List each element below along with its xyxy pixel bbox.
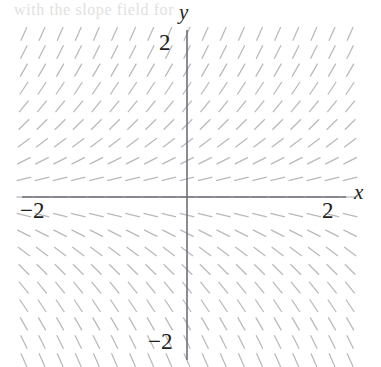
- slope-segment: [129, 335, 136, 348]
- slope-segment: [311, 353, 317, 367]
- slope-segment: [254, 264, 265, 275]
- slope-segment: [164, 101, 173, 113]
- slope-segment: [234, 213, 249, 217]
- slope-segment: [329, 335, 336, 348]
- slope-segment: [147, 82, 155, 94]
- slope-segment: [90, 138, 102, 147]
- slope-segment: [39, 27, 45, 41]
- slope-segment: [201, 300, 209, 312]
- slope-segment: [145, 138, 157, 147]
- slope-segment: [255, 300, 263, 312]
- slope-segment: [55, 264, 66, 275]
- slope-segment: [71, 177, 86, 181]
- slope-segment: [111, 353, 117, 367]
- slope-segment: [273, 82, 281, 94]
- slope-segment: [220, 64, 227, 77]
- slope-segment: [145, 247, 157, 256]
- slope-segment: [144, 157, 157, 164]
- slope-segment: [201, 64, 208, 77]
- slope-segment: [72, 247, 84, 256]
- slope-segment: [18, 247, 30, 256]
- slope-segment: [35, 177, 50, 181]
- slope-segment: [346, 300, 354, 312]
- slope-segment: [127, 247, 139, 256]
- slope-segment: [20, 317, 27, 330]
- slope-segment: [343, 213, 358, 217]
- slope-segment: [54, 138, 66, 147]
- slope-segment: [272, 138, 284, 147]
- slope-segment: [37, 264, 48, 275]
- slope-segment: [36, 138, 48, 147]
- slope-segment: [56, 64, 63, 77]
- slope-segment: [271, 230, 284, 237]
- slope-segment: [19, 264, 30, 275]
- slope-segment: [74, 82, 82, 94]
- slope-segment: [127, 138, 139, 147]
- slope-segment: [328, 317, 335, 330]
- slope-segment: [307, 230, 320, 237]
- slope-segment: [256, 27, 262, 41]
- slope-segment: [202, 27, 208, 41]
- slope-segment: [255, 282, 264, 294]
- slope-segment: [129, 45, 136, 58]
- slope-segment: [235, 138, 247, 147]
- slope-segment: [347, 335, 354, 348]
- slope-segment: [329, 353, 335, 367]
- slope-segment: [272, 247, 284, 256]
- slope-segment: [274, 64, 281, 77]
- slope-segment: [166, 353, 172, 367]
- slope-segment: [21, 45, 28, 58]
- slope-segment: [19, 282, 28, 294]
- slope-segment: [108, 157, 121, 164]
- slope-segment: [93, 27, 99, 41]
- slope-segment: [310, 64, 317, 77]
- slope-segment: [293, 27, 299, 41]
- slope-segment: [55, 101, 64, 113]
- slope-segment: [202, 353, 208, 367]
- y-axis-tick-label-2: 2: [159, 31, 171, 54]
- slope-segment: [57, 335, 64, 348]
- slope-segment: [253, 230, 266, 237]
- slope-segment: [38, 317, 45, 330]
- slope-segment: [146, 282, 155, 294]
- slope-segment: [145, 119, 156, 130]
- slope-segment: [125, 213, 140, 217]
- slope-segment: [143, 213, 158, 217]
- slope-segment: [39, 335, 46, 348]
- slope-segment: [198, 177, 213, 181]
- slope-segment: [218, 264, 229, 275]
- slope-segment: [344, 247, 356, 256]
- slope-segment: [220, 45, 227, 58]
- slope-segment: [273, 282, 282, 294]
- slope-segment: [326, 138, 338, 147]
- slope-segment: [163, 138, 175, 147]
- slope-segment: [219, 101, 228, 113]
- slope-segment: [198, 230, 211, 237]
- slope-segment: [75, 45, 82, 58]
- slope-segment: [128, 300, 136, 312]
- slope-segment: [256, 64, 263, 77]
- slope-segment: [130, 353, 136, 367]
- slope-segment: [165, 82, 173, 94]
- slope-segment: [327, 282, 336, 294]
- slope-segment: [274, 335, 281, 348]
- slope-segment: [200, 264, 211, 275]
- slope-segment: [147, 300, 155, 312]
- slope-segment: [217, 230, 230, 237]
- slope-segment: [347, 353, 353, 367]
- slope-segment: [111, 27, 117, 41]
- slope-segment: [310, 317, 317, 330]
- slope-segment: [291, 282, 300, 294]
- slope-segment: [201, 82, 209, 94]
- slope-segment: [292, 300, 300, 312]
- slope-segment: [237, 82, 245, 94]
- slope-field-canvas: [0, 0, 381, 367]
- slope-segment: [292, 45, 299, 58]
- slope-segment: [307, 213, 322, 217]
- slope-segment: [130, 27, 136, 41]
- slope-segment: [345, 282, 354, 294]
- slope-segment: [237, 101, 246, 113]
- slope-segment: [307, 157, 320, 164]
- slope-segment: [109, 138, 121, 147]
- slope-segment: [290, 138, 302, 147]
